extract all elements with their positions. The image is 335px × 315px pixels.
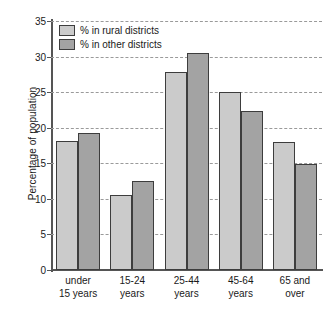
bar-group	[110, 21, 154, 270]
bar	[273, 142, 295, 270]
y-tick-label-35: 35	[20, 16, 46, 27]
plot-area	[51, 21, 322, 270]
legend-label-rural: % in rural districts	[80, 25, 159, 36]
bar-group	[273, 21, 317, 270]
x-category-label: 25-44years	[159, 275, 213, 300]
y-tick-mark-20	[47, 128, 51, 129]
bar	[241, 111, 263, 270]
legend-item-other: % in other districts	[59, 38, 162, 51]
y-tick-mark-0	[47, 270, 51, 271]
y-tick-mark-10	[47, 199, 51, 200]
y-tick-label-0: 0	[20, 265, 46, 276]
x-category-label: 15-24years	[105, 275, 159, 300]
bar	[295, 164, 317, 270]
bar	[56, 141, 78, 270]
bar	[132, 181, 154, 270]
bar	[187, 53, 209, 270]
y-tick-label-5: 5	[20, 229, 46, 240]
legend-swatch-icon-other	[59, 39, 75, 50]
legend-swatch-icon-rural	[59, 25, 75, 36]
y-tick-label-25: 25	[20, 87, 46, 98]
y-tick-label-15: 15	[20, 158, 46, 169]
y-tick-label-10: 10	[20, 193, 46, 204]
y-tick-mark-25	[47, 92, 51, 93]
x-category-label: 45-64years	[214, 275, 268, 300]
bar	[110, 195, 132, 270]
legend-item-rural: % in rural districts	[59, 24, 162, 37]
bar-group	[219, 21, 263, 270]
y-tick-label-30: 30	[20, 51, 46, 62]
bar-group	[56, 21, 100, 270]
bar-series-container	[51, 21, 322, 270]
y-tick-label-20: 20	[20, 122, 46, 133]
bar	[219, 92, 241, 270]
bar-group	[165, 21, 209, 270]
legend: % in rural districts % in other district…	[59, 24, 162, 52]
x-category-label: under15 years	[51, 275, 105, 300]
x-category-label: 65 andover	[268, 275, 322, 300]
bar	[78, 133, 100, 270]
legend-label-other: % in other districts	[80, 39, 162, 50]
y-tick-mark-15	[47, 163, 51, 164]
y-tick-mark-30	[47, 57, 51, 58]
gridline-0	[51, 270, 322, 271]
bar-chart: Percentage of population 05101520253035 …	[0, 0, 335, 315]
y-tick-mark-5	[47, 234, 51, 235]
y-axis-title: Percentage of population	[27, 34, 38, 254]
bar	[165, 72, 187, 270]
y-tick-mark-35	[47, 21, 51, 22]
